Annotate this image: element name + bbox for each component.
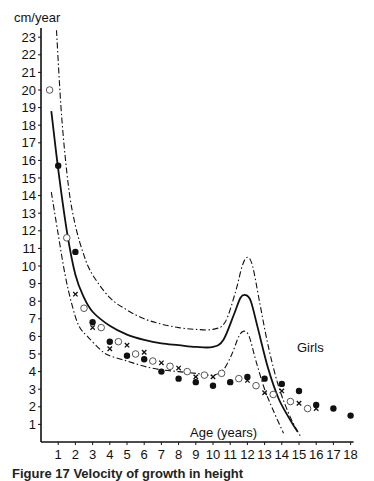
x-tick-label: 9 — [192, 447, 199, 462]
y-tick-label: 5 — [29, 347, 36, 362]
x-tick-label: 18 — [343, 447, 357, 462]
cross-point — [211, 375, 215, 379]
y-tick-label: 6 — [29, 329, 36, 344]
filled-circle-point — [347, 412, 353, 418]
y-tick-label: 21 — [22, 65, 36, 80]
cross-point — [176, 366, 180, 370]
y-tick-label: 22 — [22, 47, 36, 62]
data-points — [46, 87, 354, 419]
open-circle-point — [98, 324, 105, 331]
x-tick-label: 7 — [158, 447, 165, 462]
open-circle-point — [236, 375, 243, 382]
filled-circle-point — [107, 338, 113, 344]
figure-caption: Figure 17 Velocity of growth in height — [12, 466, 243, 481]
y-tick-label: 3 — [29, 382, 36, 397]
filled-circle-point — [158, 368, 164, 374]
x-tick-label: 6 — [141, 447, 148, 462]
y-tick-label: 18 — [22, 118, 36, 133]
y-tick-label: 14 — [22, 188, 36, 203]
y-tick-label: 1 — [29, 417, 36, 432]
y-tick-label: 15 — [22, 171, 36, 186]
curve-lower-limit — [51, 192, 283, 433]
open-circle-point — [287, 398, 294, 405]
y-tick-label: 9 — [29, 276, 36, 291]
y-tick-label: 11 — [23, 241, 37, 256]
open-circle-point — [270, 391, 277, 398]
y-tick-label: 8 — [29, 294, 36, 309]
x-tick-label: 2 — [72, 447, 79, 462]
open-circle-point — [132, 351, 139, 358]
cross-point — [194, 375, 198, 379]
x-tick-label: 3 — [89, 447, 96, 462]
open-circle-point — [184, 368, 191, 375]
y-tick-label: 12 — [22, 223, 36, 238]
x-tick-label: 10 — [206, 447, 220, 462]
x-tick-label: 11 — [223, 447, 237, 462]
filled-circle-point — [244, 374, 250, 380]
open-circle-point — [218, 370, 225, 377]
x-tick-label: 13 — [257, 447, 271, 462]
open-circle-point — [115, 338, 122, 345]
filled-circle-point — [175, 375, 181, 381]
y-tick-label: 7 — [29, 311, 36, 326]
cross-point — [297, 401, 301, 405]
open-circle-point — [167, 363, 174, 370]
y-tick-label: 17 — [22, 135, 36, 150]
open-circle-point — [46, 87, 53, 94]
x-tick-label: 16 — [309, 447, 323, 462]
filled-circle-point — [124, 353, 130, 359]
y-tick-label: 10 — [22, 259, 36, 274]
cross-point — [73, 292, 77, 296]
cross-point — [108, 347, 112, 351]
cross-point — [142, 350, 146, 354]
filled-circle-point — [313, 402, 319, 408]
open-circle-point — [304, 405, 311, 412]
filled-circle-point — [89, 319, 95, 325]
axes: 1234567891011121314151617181920212223123… — [22, 28, 358, 462]
filled-circle-point — [261, 375, 267, 381]
x-tick-label: 14 — [275, 447, 289, 462]
filled-circle-point — [330, 405, 336, 411]
x-tick-label: 8 — [175, 447, 182, 462]
open-circle-point — [253, 382, 260, 389]
x-tick-label: 12 — [240, 447, 254, 462]
filled-circle-point — [279, 381, 285, 387]
y-tick-label: 20 — [22, 83, 36, 98]
cross-point — [280, 389, 284, 393]
y-tick-label: 19 — [22, 100, 36, 115]
filled-circle-point — [210, 382, 216, 388]
open-circle-point — [150, 358, 157, 365]
cross-point — [159, 361, 163, 365]
y-tick-label: 13 — [22, 206, 36, 221]
x-axis-title: Age (years) — [190, 425, 257, 440]
filled-circle-point — [296, 388, 302, 394]
open-circle-point — [64, 235, 71, 242]
open-circle-point — [81, 305, 88, 312]
y-tick-label: 2 — [29, 399, 36, 414]
x-tick-label: 15 — [292, 447, 306, 462]
series-label-girls: Girls — [297, 340, 324, 355]
filled-circle-point — [72, 249, 78, 255]
filled-circle-point — [55, 162, 61, 168]
y-axis-unit-label: cm/year — [14, 10, 61, 25]
y-tick-label: 16 — [22, 153, 36, 168]
x-tick-label: 17 — [326, 447, 340, 462]
filled-circle-point — [193, 379, 199, 385]
x-tick-label: 5 — [123, 447, 130, 462]
x-tick-label: 4 — [106, 447, 113, 462]
x-tick-label: 1 — [55, 447, 62, 462]
y-tick-label: 4 — [29, 364, 36, 379]
cross-point — [90, 325, 94, 329]
curve-mean — [51, 111, 297, 431]
open-circle-point — [201, 372, 208, 379]
filled-circle-point — [141, 356, 147, 362]
y-tick-label: 23 — [22, 30, 36, 45]
cross-point — [125, 343, 129, 347]
